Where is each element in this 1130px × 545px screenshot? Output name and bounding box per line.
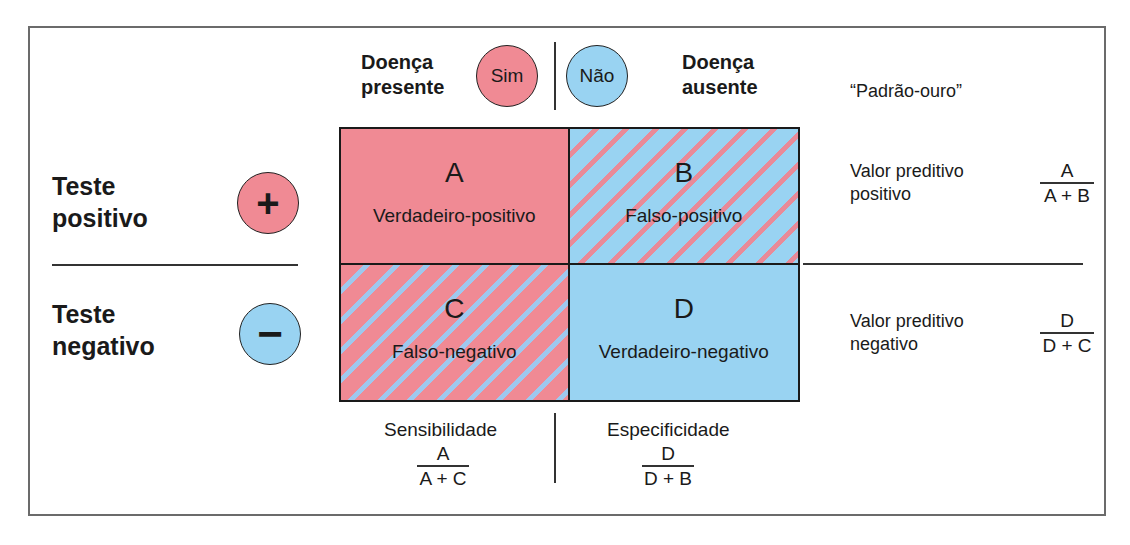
sensitivity-label: Sensibilidade — [384, 418, 497, 441]
npv-label: Valor preditivo negativo — [850, 310, 964, 356]
npv-denominator: D + C — [1042, 334, 1091, 358]
sensitivity-numerator: A — [437, 443, 450, 465]
yes-circle-label: Sim — [491, 65, 524, 87]
plus-symbol: + — [256, 183, 279, 223]
test-negative-line1: Teste — [52, 298, 155, 330]
disease-present-label: Doença presente — [361, 50, 444, 100]
cell-label: Verdadeiro-positivo — [373, 205, 536, 227]
disease-absent-label: Doença ausente — [682, 50, 758, 100]
yes-circle: Sim — [476, 45, 538, 107]
cell-label: Verdadeiro-negativo — [599, 341, 769, 363]
gold-standard-label: “Padrão-ouro” — [850, 80, 962, 103]
test-negative-line2: negativo — [52, 330, 155, 362]
ppv-denominator: A + B — [1044, 184, 1090, 208]
npv-formula: D D + C — [1040, 310, 1094, 358]
disease-present-line1: Doença — [361, 50, 444, 75]
cell-letter: A — [445, 157, 464, 189]
cell-letter: D — [674, 293, 694, 325]
plus-icon: + — [237, 172, 299, 234]
specificity-label: Especificidade — [607, 418, 730, 441]
specificity-formula: D D + B — [642, 443, 694, 491]
npv-line1: Valor preditivo — [850, 310, 964, 333]
test-positive-line2: positivo — [52, 202, 148, 234]
cell-d-true-negative: D Verdadeiro-negativo — [570, 265, 799, 401]
specificity-numerator: D — [661, 443, 675, 465]
cell-a-true-positive: A Verdadeiro-positivo — [341, 129, 570, 265]
cell-b-false-positive: B Falso-positivo — [570, 129, 799, 265]
npv-line2: negativo — [850, 333, 964, 356]
cell-label: Falso-negativo — [392, 341, 517, 363]
bottom-divider — [554, 413, 556, 483]
right-row-divider — [803, 263, 1083, 265]
npv-numerator: D — [1060, 310, 1074, 332]
cell-letter: C — [444, 293, 464, 325]
contingency-table: A Verdadeiro-positivo B Falso-positivo C… — [339, 127, 800, 402]
ppv-line2: positivo — [850, 183, 964, 206]
cell-c-false-negative: C Falso-negativo — [341, 265, 570, 401]
cell-letter: B — [674, 157, 693, 189]
sensitivity-denominator: A + C — [420, 467, 467, 491]
specificity-denominator: D + B — [644, 467, 692, 491]
disease-absent-line2: ausente — [682, 75, 758, 100]
cell-label: Falso-positivo — [625, 205, 742, 227]
disease-present-line2: presente — [361, 75, 444, 100]
minus-icon: − — [239, 303, 301, 365]
ppv-numerator: A — [1061, 160, 1074, 182]
ppv-label: Valor preditivo positivo — [850, 160, 964, 206]
minus-symbol: − — [257, 314, 283, 354]
test-positive-line1: Teste — [52, 170, 148, 202]
header-divider — [554, 42, 556, 110]
test-negative-label: Teste negativo — [52, 298, 155, 362]
left-row-divider — [52, 264, 298, 266]
disease-absent-line1: Doença — [682, 50, 758, 75]
ppv-formula: A A + B — [1040, 160, 1094, 208]
test-positive-label: Teste positivo — [52, 170, 148, 234]
no-circle-label: Não — [580, 65, 615, 87]
no-circle: Não — [566, 45, 628, 107]
ppv-line1: Valor preditivo — [850, 160, 964, 183]
sensitivity-formula: A A + C — [417, 443, 469, 491]
